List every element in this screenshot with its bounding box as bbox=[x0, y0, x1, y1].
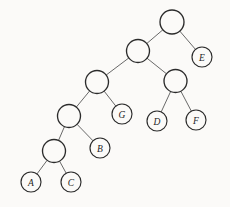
tree-edge-root-n1 bbox=[147, 30, 163, 44]
tree-edge-n5-C bbox=[60, 161, 67, 173]
tree-edge-n3-D bbox=[161, 91, 170, 111]
node-circle bbox=[43, 140, 66, 163]
node-layer: EGDFBAC bbox=[21, 10, 212, 192]
tree-internal-node-n5 bbox=[43, 140, 66, 163]
node-label: A bbox=[27, 178, 34, 188]
tree-diagram: EGDFBAC bbox=[0, 0, 230, 207]
tree-leaf-node-E: E bbox=[192, 47, 212, 67]
tree-leaf-node-D: D bbox=[147, 111, 167, 131]
node-circle bbox=[127, 40, 150, 63]
tree-diagram-canvas: EGDFBAC bbox=[0, 0, 230, 207]
tree-edge-root-E bbox=[180, 31, 196, 49]
node-label: F bbox=[192, 116, 199, 126]
tree-leaf-node-A: A bbox=[21, 172, 41, 192]
node-circle bbox=[160, 10, 184, 34]
tree-leaf-node-F: F bbox=[186, 110, 206, 130]
tree-edge-n3-F bbox=[181, 91, 192, 111]
node-label: E bbox=[198, 53, 205, 63]
tree-edge-n2-n4 bbox=[76, 91, 89, 107]
tree-internal-node-n1 bbox=[127, 40, 150, 63]
tree-internal-node-n4 bbox=[58, 105, 81, 128]
tree-internal-node-root bbox=[160, 10, 184, 34]
tree-edge-n1-n2 bbox=[106, 58, 129, 75]
node-label: D bbox=[153, 117, 161, 127]
tree-internal-node-n2 bbox=[86, 71, 109, 94]
tree-edge-n5-A bbox=[37, 160, 47, 174]
node-label: B bbox=[97, 144, 103, 154]
tree-leaf-node-G: G bbox=[112, 104, 132, 124]
tree-edge-n1-n3 bbox=[147, 58, 167, 74]
node-circle bbox=[164, 70, 187, 93]
tree-edge-n4-B bbox=[77, 124, 93, 141]
tree-edge-n2-G bbox=[104, 91, 116, 106]
node-circle bbox=[86, 71, 109, 94]
node-circle bbox=[58, 105, 81, 128]
node-label: C bbox=[68, 178, 75, 188]
node-label: G bbox=[119, 110, 126, 120]
tree-internal-node-n3 bbox=[164, 70, 187, 93]
tree-leaf-node-C: C bbox=[61, 172, 81, 192]
tree-leaf-node-B: B bbox=[90, 138, 110, 158]
tree-edge-n4-n5 bbox=[59, 127, 65, 141]
